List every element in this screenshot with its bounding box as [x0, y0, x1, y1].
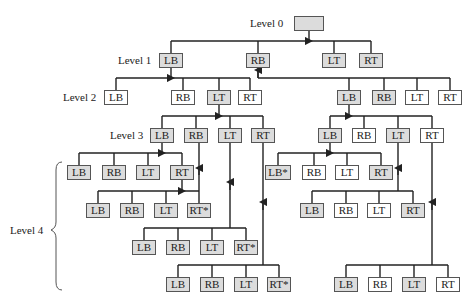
level-3-label: Level 3 [110, 129, 143, 141]
tree-node-b-lb: LB [86, 203, 110, 218]
level-0-label: Level 0 [250, 17, 283, 29]
tree-node-g-rb: RB [368, 277, 392, 292]
tree-node-e-lb: LB* [265, 165, 291, 180]
tree-node-b-lt: LT [154, 203, 178, 218]
connector-lines [0, 0, 476, 305]
tree-node-l3b-rt: RT [420, 128, 444, 143]
tree-node-g-lb: LB [334, 277, 358, 292]
tree-node-e-rb: RB [302, 165, 326, 180]
tree-node-l1-lt: LT [322, 53, 346, 68]
tree-node-l2b-rb: RB [372, 90, 396, 105]
tree-node-f-rt: RT [401, 203, 425, 218]
tree-node-l3b-lb: LB [318, 128, 342, 143]
tree-node-e-rt: RT [369, 165, 393, 180]
level-1-label: Level 1 [118, 54, 151, 66]
tree-node-c-rt: RT* [234, 240, 258, 255]
tree-node-a-lt: LT [136, 165, 160, 180]
tree-node-l3b-lt: LT [386, 128, 410, 143]
tree-node-d-rb: RB [200, 277, 224, 292]
tree-node-l3b-rb: RB [352, 128, 376, 143]
tree-node-e-lt: LT [335, 165, 359, 180]
tree-node-d-lb: LB [166, 277, 190, 292]
tree-node-a-rt: RT [170, 165, 194, 180]
tree-node-l2b-lb: LB [337, 90, 361, 105]
tree-node-l3a-lt: LT [218, 128, 242, 143]
tree-node-g-rt: RT [436, 277, 460, 292]
level-4-label: Level 4 [10, 224, 43, 236]
tree-node-l2a-rb: RB [171, 90, 195, 105]
tree-node-b-rt: RT* [187, 203, 211, 218]
tree-node-l3a-rt: RT [251, 128, 275, 143]
tree-node-c-rb: RB [166, 240, 190, 255]
tree-node-l3a-rb: RB [184, 128, 208, 143]
tree-node-f-lt: LT [367, 203, 391, 218]
tree-node-l2a-rt: RT [238, 90, 262, 105]
tree-node-l2a-lb: LB [104, 90, 128, 105]
tree-node-l2b-lt: LT [405, 90, 429, 105]
level4-brace [51, 162, 62, 290]
tree-node-l1-lb: LB [159, 53, 183, 68]
tree-node-l3a-lb: LB [150, 128, 174, 143]
tree-node-c-lt: LT [200, 240, 224, 255]
level-2-label: Level 2 [63, 91, 96, 103]
tree-node-l1-rt: RT [359, 53, 383, 68]
tree-node-root [294, 16, 324, 31]
tree-node-l2a-lt: LT [207, 90, 231, 105]
quadtree-diagram: Level 0 Level 1 Level 2 Level 3 Level 4 … [0, 0, 476, 305]
tree-node-a-lb: LB [67, 165, 91, 180]
tree-node-d-lt: LT [234, 277, 258, 292]
tree-node-l2b-rt: RT [438, 90, 462, 105]
tree-node-d-rt: RT* [267, 277, 291, 292]
tree-node-f-rb: RB [334, 203, 358, 218]
tree-node-b-rb: RB [120, 203, 144, 218]
tree-node-f-lb: LB [300, 203, 324, 218]
tree-node-a-rb: RB [102, 165, 126, 180]
tree-node-g-lt: LT [402, 277, 426, 292]
tree-node-l1-rb: RB [246, 53, 270, 68]
tree-node-c-lb: LB [132, 240, 156, 255]
